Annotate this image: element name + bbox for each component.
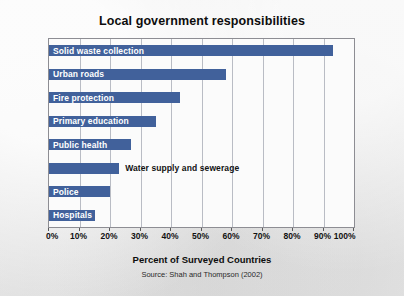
bar-label: Public health <box>53 140 107 150</box>
x-axis-title: Percent of Surveyed Countries <box>0 254 404 265</box>
bar-label: Primary education <box>53 116 129 126</box>
bar-label: Water supply and sewerage <box>125 163 239 173</box>
bar-row[interactable]: Public health <box>49 139 354 150</box>
bar-row[interactable]: Hospitals <box>49 210 354 221</box>
bar[interactable]: Fire protection <box>49 92 180 103</box>
bar-row[interactable]: Police <box>49 186 354 197</box>
bar-label: Police <box>53 187 79 197</box>
x-tick-label: 20% <box>100 231 117 241</box>
x-axis: 0%10%20%30%40%50%60%70%80%90%100% <box>48 228 355 244</box>
bar-label: Urban roads <box>53 69 104 79</box>
x-tick-label: 30% <box>131 231 148 241</box>
bar[interactable]: Public health <box>49 139 131 150</box>
x-tick-label: 40% <box>161 231 178 241</box>
x-tick-label: 60% <box>222 231 239 241</box>
x-tick-label: 10% <box>70 231 87 241</box>
bar[interactable]: Urban roads <box>49 69 226 80</box>
bar[interactable]: Hospitals <box>49 210 95 221</box>
x-tick-label: 70% <box>253 231 270 241</box>
x-tick-label: 90% <box>314 231 331 241</box>
bar[interactable]: Solid waste collection <box>49 45 333 56</box>
x-tick-label: 50% <box>192 231 209 241</box>
bar[interactable]: Police <box>49 186 110 197</box>
chart-figure: Local government responsibilities Solid … <box>0 0 404 296</box>
x-tick-label: 100% <box>334 231 356 241</box>
bar-row[interactable]: Fire protection <box>49 92 354 103</box>
plot-area: Solid waste collectionUrban roadsFire pr… <box>48 38 355 228</box>
bar-row[interactable]: Primary education <box>49 116 354 127</box>
bar-series: Solid waste collectionUrban roadsFire pr… <box>49 39 354 227</box>
bar-row[interactable]: Urban roads <box>49 69 354 80</box>
bar-label: Hospitals <box>53 210 92 220</box>
chart-title: Local government responsibilities <box>0 14 404 28</box>
bar-row[interactable]: Water supply and sewerage <box>49 163 354 174</box>
bar[interactable]: Primary education <box>49 116 156 127</box>
source-note: Source: Shah and Thompson (2002) <box>0 270 404 279</box>
bar[interactable] <box>49 163 119 174</box>
bar-row[interactable]: Solid waste collection <box>49 45 354 56</box>
bar-label: Fire protection <box>53 93 114 103</box>
bar-label: Solid waste collection <box>53 46 144 56</box>
x-tick-label: 80% <box>283 231 300 241</box>
x-tick-label: 0% <box>46 231 58 241</box>
